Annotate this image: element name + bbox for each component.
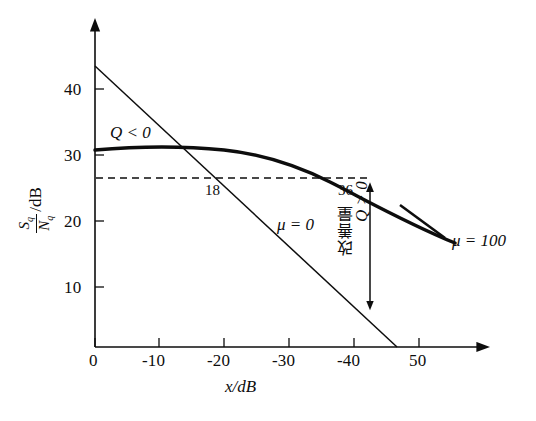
x-axis-title: x/dB [225, 378, 256, 395]
x-tick-label-50: 50 [409, 352, 426, 369]
annotation-mu-zero: μ = 0 [277, 216, 314, 233]
y-axis-ticks [95, 89, 104, 287]
marker-label-36: 36 [338, 183, 353, 198]
x-axis-ticks [95, 338, 419, 347]
x-tick-label-m40: -40 [337, 352, 360, 369]
x-tick-label-m30: -30 [272, 352, 295, 369]
y-axis-unit: /dB [26, 187, 46, 212]
series-curve-mu-100 [95, 147, 455, 243]
x-tick-label-0: 0 [89, 352, 98, 369]
x-tick-label-m10: -10 [142, 352, 165, 369]
x-tick-label-m20: -20 [207, 352, 230, 369]
y-tick-label-40: 40 [64, 81, 81, 98]
y-tick-label-30: 30 [64, 147, 81, 164]
y-axis-numerator: S [16, 222, 32, 230]
y-axis-numerator-sub: q [24, 217, 35, 222]
y-axis-title: Sq Nq /dB [0, 180, 96, 240]
x-axis-title-text: x/dB [225, 377, 256, 396]
annotation-q-negative: Q < 0 [110, 124, 151, 141]
marker-label-18: 18 [205, 183, 220, 198]
annotation-mu-hundred: μ = 100 [452, 232, 506, 249]
y-axis-title-fraction: Sq Nq [17, 214, 55, 233]
y-axis-denominator: N [36, 221, 52, 231]
figure-container: 0 -10 -20 -30 -40 50 40 30 20 10 x/dB Sq… [0, 0, 536, 421]
annotation-q-positive: Q > 0 [352, 181, 372, 222]
y-tick-label-10: 10 [64, 279, 81, 296]
y-axis-denominator-sub: q [44, 216, 55, 221]
